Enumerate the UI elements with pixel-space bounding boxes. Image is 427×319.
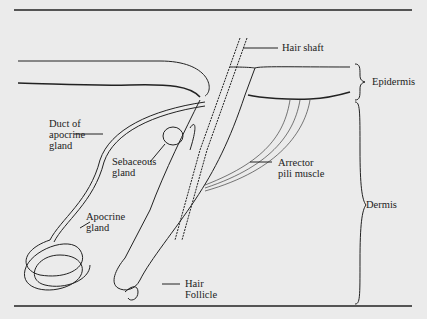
- skin-diagram: [0, 0, 427, 319]
- label-duct-3: gland: [49, 140, 72, 151]
- sebaceous-gland: [163, 127, 183, 145]
- epidermis-base-left: [18, 83, 200, 97]
- label-dermis: Dermis: [366, 199, 397, 210]
- hair-follicle: [114, 67, 255, 290]
- label-apocrine-1: Apocrine: [86, 211, 125, 222]
- dermis-brace: [355, 102, 366, 304]
- sebaceous-duct: [190, 124, 195, 150]
- label-sebaceous-2: gland: [112, 167, 135, 178]
- epidermis-brace: [355, 64, 365, 100]
- hair-shaft: [175, 38, 240, 240]
- epidermis-base-right: [248, 92, 350, 99]
- label-duct-1: Duct of: [49, 118, 81, 129]
- label-sebaceous-1: Sebaceous: [112, 156, 156, 167]
- label-apocrine-2: gland: [86, 222, 109, 233]
- skin-surface-left: [18, 61, 209, 96]
- skin-surface-right: [255, 67, 350, 68]
- apocrine-gland: [24, 240, 90, 290]
- label-arrector-1: Arrector: [278, 157, 314, 168]
- label-follicle-2: Follicle: [185, 289, 217, 300]
- label-hair-shaft: Hair shaft: [282, 42, 324, 53]
- label-follicle-1: Hair: [185, 278, 204, 289]
- label-duct-2: apocrine: [49, 129, 85, 140]
- label-arrector-2: pili muscle: [278, 168, 324, 179]
- label-epidermis: Epidermis: [372, 76, 415, 87]
